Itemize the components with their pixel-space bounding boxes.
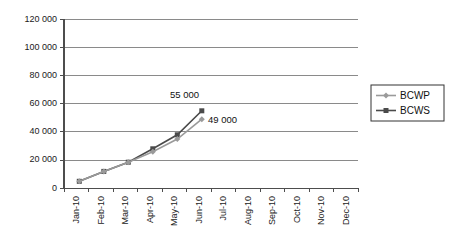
line-chart: 120 000 100 000 80 000 60 000 40 000 20 … xyxy=(0,0,456,246)
y-tick-labels: 120 000 100 000 80 000 60 000 40 000 20 … xyxy=(24,14,57,193)
x-tick-label-feb-10: Feb-10 xyxy=(96,196,106,225)
legend-label-bcwp: BCWP xyxy=(400,90,430,101)
x-tick-label-jan-10: Jan-10 xyxy=(71,196,81,224)
x-tick-label-jul-10: Jul-10 xyxy=(218,196,228,221)
y-tick-label-60000: 60 000 xyxy=(29,98,57,108)
x-tick-labels: Jan-10 Feb-10 Mar-10 Apr-10 May-10 Jun-1… xyxy=(71,196,351,226)
legend: BCWP BCWS xyxy=(371,85,444,121)
y-tick-label-0: 0 xyxy=(52,183,57,193)
x-tick-label-dec-10: Dec-10 xyxy=(341,196,351,225)
datapoint-bcws-jun-10 xyxy=(199,108,204,113)
x-tick-label-aug-10: Aug-10 xyxy=(243,196,253,225)
y-tick-label-120000: 120 000 xyxy=(24,14,57,24)
x-tickmarks xyxy=(64,188,358,192)
series-line-bcws xyxy=(79,111,202,182)
x-tick-label-mar-10: Mar-10 xyxy=(120,196,130,225)
annotation-bcws-jun-55000: 55 000 xyxy=(170,89,199,100)
x-tick-label-apr-10: Apr-10 xyxy=(145,196,155,223)
x-tick-label-may-10: May-10 xyxy=(169,196,179,226)
legend-label-bcws: BCWS xyxy=(400,105,430,116)
y-tick-label-100000: 100 000 xyxy=(24,42,57,52)
y-tick-label-80000: 80 000 xyxy=(29,70,57,80)
y-tick-label-40000: 40 000 xyxy=(29,126,57,136)
x-tick-label-nov-10: Nov-10 xyxy=(316,196,326,225)
annotation-bcwp-jun-49000: 49 000 xyxy=(208,114,237,125)
chart-canvas: 120 000 100 000 80 000 60 000 40 000 20 … xyxy=(0,0,456,246)
gridlines xyxy=(64,19,358,160)
x-tick-label-jun-10: Jun-10 xyxy=(194,196,204,224)
legend-marker-square-icon xyxy=(384,108,389,113)
x-tick-label-sep-10: Sep-10 xyxy=(267,196,277,225)
series-bcws xyxy=(77,108,205,184)
x-tick-label-oct-10: Oct-10 xyxy=(292,196,302,223)
y-tick-label-20000: 20 000 xyxy=(29,154,57,164)
